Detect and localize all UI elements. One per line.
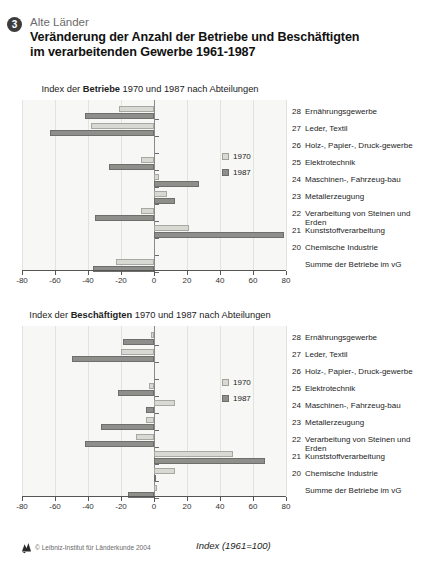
x-axis-tick xyxy=(187,497,188,501)
bar-1987-1 xyxy=(72,356,155,362)
category-label-row: Summe der Betriebe im vG xyxy=(292,260,401,269)
bar-1987-6 xyxy=(85,441,154,447)
category-label-row: 21Kunststoffverarbeitung xyxy=(292,452,385,461)
category-label-row: 26Holz-, Papier-, Druck-gewerbe xyxy=(292,367,413,376)
legend-label-1987: 1987 xyxy=(233,394,251,403)
category-label-row: 20Chemische Industrie xyxy=(292,243,378,252)
legend-swatch-1970-icon xyxy=(222,379,229,386)
legend-label-1987: 1987 xyxy=(233,168,251,177)
category-name: Ernährungsgewerbe xyxy=(305,333,377,342)
category-tick xyxy=(155,255,159,256)
gridline xyxy=(88,100,89,270)
chart-beschaeftigten: Index der Beschäftigten 1970 und 1987 na… xyxy=(0,310,430,531)
gridline xyxy=(22,100,23,270)
category-name: Verarbeitung von Steinen und Erden xyxy=(305,435,430,454)
category-number: 21 xyxy=(292,452,305,461)
chart-beschaeftigten-plot xyxy=(22,326,286,496)
figure-page: 3 Alte Länder Veränderung der Anzahl der… xyxy=(0,0,430,567)
x-axis-tick-label: -60 xyxy=(49,502,61,511)
category-tick xyxy=(155,136,159,137)
gridline xyxy=(88,326,89,496)
category-label-row: 25Elektrotechnik xyxy=(292,158,355,167)
x-axis-tick xyxy=(220,271,221,275)
bar-1987-1 xyxy=(50,130,154,136)
category-name: Maschinen-, Fahrzeug-bau xyxy=(305,401,401,410)
x-axis-tick-label: 20 xyxy=(183,502,192,511)
legend-swatch-1970-icon xyxy=(222,153,229,160)
legend-swatch-1987-icon xyxy=(222,395,229,402)
category-label-row: 28Ernährungsgewerbe xyxy=(292,107,377,116)
x-axis-tick xyxy=(88,497,89,501)
category-number: 22 xyxy=(292,209,305,228)
figure-title-line-2: im verarbeitenden Gewerbe 1961-1987 xyxy=(30,45,359,60)
x-axis-tick-label: 80 xyxy=(282,276,291,285)
bar-1987-4 xyxy=(154,181,199,187)
bar-1987-0 xyxy=(85,113,154,119)
bar-1970-4 xyxy=(154,174,159,180)
bar-1987-6 xyxy=(95,215,154,221)
gridline xyxy=(187,326,188,496)
category-label-row: 20Chemische Industrie xyxy=(292,469,378,478)
category-tick xyxy=(155,221,159,222)
category-tick xyxy=(155,238,159,239)
category-name: Summe der Betriebe im vG xyxy=(305,486,401,495)
bar-1987-0 xyxy=(123,339,154,345)
category-number: 27 xyxy=(292,124,305,133)
category-number: 26 xyxy=(292,141,305,150)
bar-1970-1 xyxy=(121,349,154,355)
category-tick xyxy=(155,204,159,205)
x-axis-tick xyxy=(121,271,122,275)
x-axis-tick-label: -80 xyxy=(16,502,28,511)
x-axis-tick-label: -40 xyxy=(82,276,94,285)
category-number: 24 xyxy=(292,175,305,184)
category-name: Metallerzeugung xyxy=(305,192,364,201)
x-axis-tick-label: 40 xyxy=(216,276,225,285)
axis-caption: Index (1961=100) xyxy=(196,540,271,551)
bar-1970-0 xyxy=(151,332,154,338)
category-number xyxy=(292,260,305,269)
category-name: Leder, Textil xyxy=(305,350,348,359)
bar-1970-6 xyxy=(136,434,154,440)
bar-1987-7 xyxy=(154,232,284,238)
category-name: Summe der Betriebe im vG xyxy=(305,260,401,269)
gridline xyxy=(253,326,254,496)
bar-1987-5 xyxy=(154,198,175,204)
category-number: 23 xyxy=(292,418,305,427)
category-name: Metallerzeugung xyxy=(305,418,364,427)
category-name: Kunststoffverarbeitung xyxy=(305,226,385,235)
chart-betriebe-plot xyxy=(22,100,286,270)
x-axis-tick xyxy=(88,271,89,275)
gridline xyxy=(55,100,56,270)
chart-betriebe-title-suffix: 1970 und 1987 nach Abteilungen xyxy=(120,84,259,94)
category-name: Verarbeitung von Steinen und Erden xyxy=(305,209,430,228)
x-axis-tick xyxy=(55,271,56,275)
bar-1970-1 xyxy=(91,123,154,129)
bar-1987-3 xyxy=(109,164,154,170)
category-name: Ernährungsgewerbe xyxy=(305,107,377,116)
chart-beschaeftigten-title-suffix: 1970 und 1987 nach Abteilungen xyxy=(132,310,271,320)
category-label-row: 21Kunststoffverarbeitung xyxy=(292,226,385,235)
bar-1987-8 xyxy=(154,475,156,481)
category-tick xyxy=(155,170,159,171)
category-name: Kunststoffverarbeitung xyxy=(305,452,385,461)
category-name: Maschinen-, Fahrzeug-bau xyxy=(305,175,401,184)
category-label-row: 28Ernährungsgewerbe xyxy=(292,333,377,342)
category-label-row: 23Metallerzeugung xyxy=(292,418,364,427)
gridline xyxy=(22,326,23,496)
category-number: 26 xyxy=(292,367,305,376)
chart-beschaeftigten-legend: 1970 1987 xyxy=(222,378,251,410)
legend-item-1987: 1987 xyxy=(222,168,251,177)
category-tick xyxy=(155,481,159,482)
x-axis-tick xyxy=(253,271,254,275)
x-axis-tick-label: -20 xyxy=(115,276,127,285)
copyright-text: © Leibniz-Institut für Länderkunde 2004 xyxy=(35,544,151,551)
category-number: 22 xyxy=(292,435,305,454)
figure-title-line-1: Veränderung der Anzahl der Betriebe und … xyxy=(30,30,359,45)
x-axis-tick-label: -60 xyxy=(49,276,61,285)
chart-beschaeftigten-title-prefix: Index der xyxy=(29,310,70,320)
chart-betriebe-title-prefix: Index der xyxy=(41,84,82,94)
gridline xyxy=(286,100,287,270)
category-name: Elektrotechnik xyxy=(305,158,355,167)
category-name: Holz-, Papier-, Druck-gewerbe xyxy=(305,141,413,150)
bar-1970-0 xyxy=(119,106,154,112)
